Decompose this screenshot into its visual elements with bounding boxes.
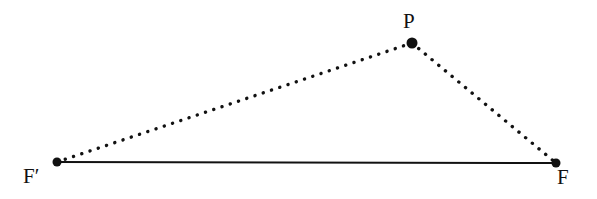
vertex-dot-p <box>407 38 418 49</box>
segment-leg-p-f <box>412 43 556 163</box>
segment-leg-fprime-p <box>57 43 412 162</box>
vertex-label-p: P <box>403 11 415 32</box>
triangle-diagram-canvas <box>0 0 597 199</box>
vertex-label-f: F <box>557 167 569 188</box>
segment-base-fprime-f <box>57 162 556 163</box>
geometry-figure: P F′ F <box>0 0 597 199</box>
vertex-label-fprime: F′ <box>23 166 39 187</box>
vertex-dot-fprime <box>53 158 62 167</box>
